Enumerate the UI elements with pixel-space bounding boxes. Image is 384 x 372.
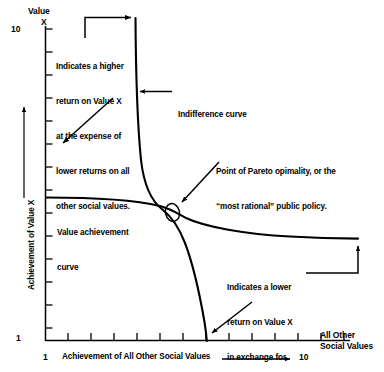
annotation-higher-return-line-2: return on Value X — [56, 96, 130, 108]
x-axis-header-line1: All Other — [320, 330, 355, 341]
y-axis-ticks — [46, 29, 53, 328]
annotation-value-achievement-curve-line-2: curve — [57, 262, 129, 274]
figure-canvas: Value X 10 1 Achievement of Value X 1 Ac… — [0, 0, 384, 372]
annotation-lower-return: Indicates a lower return on Value X in e… — [227, 259, 293, 372]
x-axis-right-tick-label: 10 — [299, 352, 308, 363]
y-axis-header-line1: Value — [28, 6, 50, 17]
y-axis-header-line2: X — [41, 17, 47, 28]
x-axis-left-tick-label: 1 — [43, 352, 48, 363]
x-axis-header-line2: Social Values — [320, 341, 373, 352]
annotation-pareto-point-line-2: “most rational” public policy. — [216, 201, 336, 213]
annotation-higher-return-line-1: Indicates a higher — [56, 61, 130, 73]
annotation-lower-return-line-2: return on Value X — [227, 317, 293, 329]
y-axis-title: Achievement of Value X — [27, 200, 37, 290]
annotation-higher-return-line-3: at the expense of — [56, 131, 130, 143]
lower-return-leader — [306, 246, 358, 273]
annotation-indifference-curve-line-1: Indifference curve — [178, 109, 247, 121]
annotation-indifference-curve: Indifference curve — [178, 86, 247, 144]
pareto-point-leader — [182, 162, 219, 202]
annotation-value-achievement-curve: Value achievement curve — [57, 204, 129, 297]
annotation-value-achievement-curve-line-1: Value achievement — [57, 227, 129, 239]
x-axis-title: Achievement of All Other Social Values — [62, 352, 210, 362]
y-axis-bottom-tick-label: 1 — [16, 333, 21, 344]
indifference-curve — [136, 18, 207, 341]
annotation-lower-return-line-1: Indicates a lower — [227, 282, 293, 294]
higher-return-leader — [85, 18, 131, 39]
y-axis-top-tick-label: 10 — [11, 24, 20, 35]
annotation-pareto-point-line-1: Point of Pareto opimality, or the — [216, 166, 336, 178]
annotation-higher-return-line-4: lower returns on all — [56, 166, 130, 178]
annotation-lower-return-line-3: in exchange for — [227, 352, 293, 364]
annotation-pareto-point: Point of Pareto opimality, or the “most … — [216, 143, 336, 236]
